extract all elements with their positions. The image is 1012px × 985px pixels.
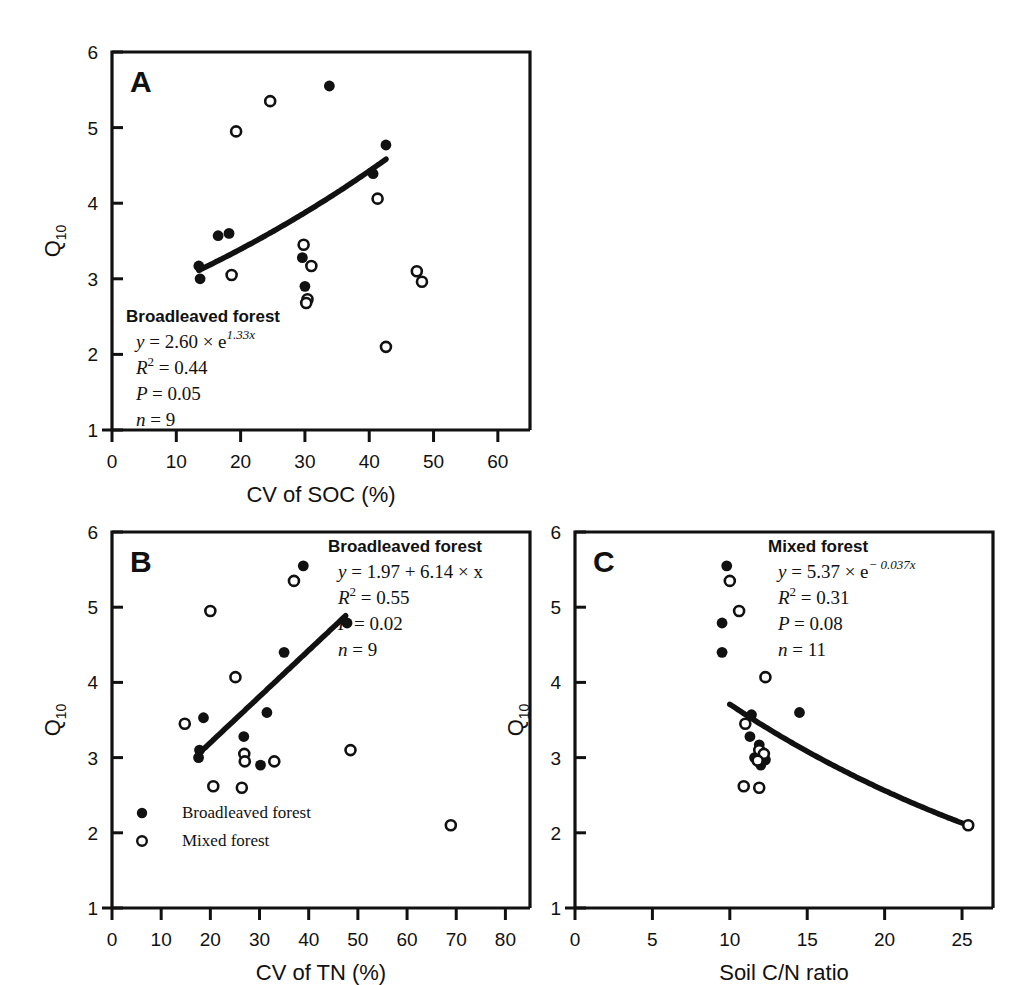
data-point-open bbox=[180, 719, 190, 729]
y-tick-label-2: 2 bbox=[87, 344, 98, 365]
x-tick-label-10: 10 bbox=[719, 929, 740, 950]
n-label: n bbox=[338, 639, 348, 660]
annotation-p-value: P = 0.08 bbox=[777, 613, 843, 634]
annotation-n-value: n = 11 bbox=[778, 639, 826, 660]
data-point-filled bbox=[297, 252, 308, 263]
legend-label-1: Mixed forest bbox=[182, 831, 270, 850]
annotation-header: Broadleaved forest bbox=[328, 537, 482, 556]
equation-rhs: = 5.37 × e bbox=[791, 561, 868, 582]
y-axis-title-main: Q bbox=[40, 240, 65, 257]
equation-exponent: 1.33x bbox=[227, 327, 256, 342]
annotation-r-squared: R2 = 0.31 bbox=[777, 584, 850, 608]
data-point-open bbox=[230, 672, 240, 682]
scatter-figure: 1234560102030405060CV of SOC (%)Q10ABroa… bbox=[0, 0, 1012, 985]
y-tick-label-3: 3 bbox=[550, 748, 561, 769]
equation-lhs: y bbox=[776, 561, 791, 582]
data-point-open bbox=[417, 277, 427, 287]
data-point-filled bbox=[224, 228, 235, 239]
series-mixed-forest bbox=[725, 576, 973, 830]
x-tick-label-50: 50 bbox=[423, 451, 444, 472]
p-value: = 0.05 bbox=[152, 383, 201, 404]
series-mixed-forest bbox=[180, 576, 456, 830]
data-point-open bbox=[754, 783, 764, 793]
data-point-open bbox=[306, 261, 316, 271]
x-tick-label-70: 70 bbox=[446, 929, 467, 950]
p-label: P bbox=[777, 613, 794, 634]
x-axis-title: CV of SOC (%) bbox=[246, 482, 395, 507]
y-axis-title: Q10 bbox=[40, 703, 69, 736]
data-point-filled bbox=[717, 618, 728, 629]
x-tick-label-20: 20 bbox=[230, 451, 251, 472]
data-point-filled bbox=[298, 560, 309, 571]
p-label: P bbox=[337, 613, 354, 634]
data-point-filled bbox=[368, 168, 379, 179]
data-point-filled bbox=[193, 261, 204, 272]
n-label: n bbox=[778, 639, 788, 660]
data-point-filled bbox=[745, 731, 756, 742]
annotation-n-value: n = 9 bbox=[338, 639, 377, 660]
equation-rhs: = 2.60 × e bbox=[149, 331, 226, 352]
y-tick-label-1: 1 bbox=[550, 898, 561, 919]
data-point-open bbox=[205, 606, 215, 616]
data-point-open bbox=[446, 820, 456, 830]
data-point-filled bbox=[213, 230, 224, 241]
annotation-C: Mixed foresty = 5.37 × e− 0.037xR2 = 0.3… bbox=[768, 537, 916, 660]
panel-A: 1234560102030405060CV of SOC (%)Q10ABroa… bbox=[40, 42, 530, 507]
y-tick-label-5: 5 bbox=[87, 597, 98, 618]
x-tick-label-60: 60 bbox=[487, 451, 508, 472]
data-point-open bbox=[739, 781, 749, 791]
x-tick-label-0: 0 bbox=[107, 929, 118, 950]
y-axis-title-text: Q10 bbox=[40, 224, 69, 257]
annotation-A: Broadleaved foresty = 2.60 × e1.33xR2 = … bbox=[126, 307, 280, 430]
legend: Broadleaved forestMixed forest bbox=[137, 803, 311, 850]
data-point-open bbox=[227, 270, 237, 280]
y-tick-label-1: 1 bbox=[87, 420, 98, 441]
equation-rhs: = 1.97 + 6.14 × x bbox=[351, 561, 483, 582]
y-axis-title-main: Q bbox=[503, 719, 528, 736]
y-axis-title-sub: 10 bbox=[53, 224, 69, 240]
y-tick-label-5: 5 bbox=[87, 118, 98, 139]
y-tick-label-6: 6 bbox=[87, 42, 98, 63]
r2-value: = 0.44 bbox=[154, 357, 208, 378]
y-tick-label-4: 4 bbox=[87, 672, 98, 693]
y-tick-label-4: 4 bbox=[550, 672, 561, 693]
x-tick-label-30: 30 bbox=[249, 929, 270, 950]
y-tick-label-2: 2 bbox=[87, 823, 98, 844]
annotation-r-squared: R2 = 0.55 bbox=[337, 584, 410, 608]
y-tick-label-2: 2 bbox=[550, 823, 561, 844]
x-tick-label-80: 80 bbox=[495, 929, 516, 950]
x-tick-label-60: 60 bbox=[396, 929, 417, 950]
annotation-header: Mixed forest bbox=[768, 537, 868, 556]
data-point-filled bbox=[194, 745, 205, 756]
legend-marker-filled bbox=[137, 808, 147, 818]
data-point-open bbox=[237, 783, 247, 793]
r2-label: R bbox=[337, 587, 350, 608]
regression-line bbox=[199, 159, 386, 270]
annotation-equation: y = 1.97 + 6.14 × x bbox=[336, 561, 484, 582]
data-point-open bbox=[412, 266, 422, 276]
data-point-open bbox=[373, 194, 383, 204]
data-point-open bbox=[963, 820, 973, 830]
data-point-filled bbox=[721, 560, 732, 571]
figure-container: 1234560102030405060CV of SOC (%)Q10ABroa… bbox=[0, 0, 1012, 985]
legend-marker-open bbox=[137, 836, 147, 846]
n-value: = 9 bbox=[146, 409, 176, 430]
data-point-open bbox=[289, 576, 299, 586]
x-tick-label-15: 15 bbox=[797, 929, 818, 950]
x-tick-label-0: 0 bbox=[107, 451, 118, 472]
data-point-open bbox=[265, 96, 275, 106]
data-point-open bbox=[381, 342, 391, 352]
data-point-open bbox=[734, 606, 744, 616]
data-point-open bbox=[240, 756, 250, 766]
x-tick-label-25: 25 bbox=[951, 929, 972, 950]
y-axis-title-sub: 10 bbox=[53, 703, 69, 719]
y-tick-label-4: 4 bbox=[87, 193, 98, 214]
r2-label: R bbox=[777, 587, 790, 608]
x-axis-title: CV of TN (%) bbox=[256, 960, 386, 985]
data-point-open bbox=[231, 126, 241, 136]
legend-label-0: Broadleaved forest bbox=[182, 803, 311, 822]
y-axis-title-text: Q10 bbox=[503, 703, 532, 736]
data-point-open bbox=[760, 672, 770, 682]
y-axis-title-text: Q10 bbox=[40, 703, 69, 736]
annotation-B: Broadleaved foresty = 1.97 + 6.14 × xR2 … bbox=[328, 537, 484, 660]
